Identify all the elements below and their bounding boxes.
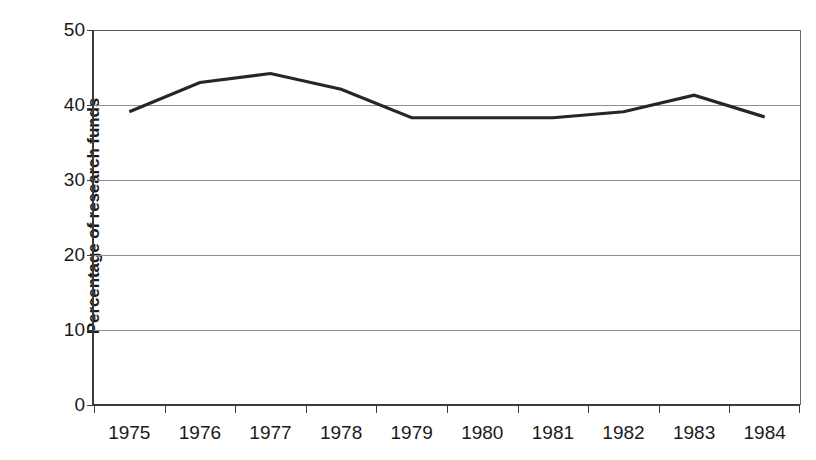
x-tick-label-1982: 1982	[602, 422, 644, 444]
x-tick-label-1978: 1978	[320, 422, 362, 444]
x-tick-mark-5	[447, 405, 448, 413]
x-tick-mark-0	[94, 405, 95, 413]
x-tick-mark-7	[588, 405, 589, 413]
x-tick-label-1981: 1981	[532, 422, 574, 444]
x-tick-mark-8	[659, 405, 660, 413]
y-tick-label-30: 30	[25, 169, 94, 191]
y-tick-label-0: 0	[25, 394, 94, 416]
plot-area: 01020304050 1975197619771978197919801981…	[92, 30, 801, 405]
x-tick-mark-1	[165, 405, 166, 413]
y-tick-mark-30	[87, 180, 94, 181]
y-tick-mark-50	[87, 30, 94, 31]
x-tick-mark-3	[306, 405, 307, 413]
x-tick-mark-2	[235, 405, 236, 413]
y-tick-mark-20	[87, 255, 94, 256]
y-tick-label-40: 40	[25, 94, 94, 116]
x-tick-mark-9	[729, 405, 730, 413]
x-tick-label-1984: 1984	[744, 422, 786, 444]
x-tick-label-1980: 1980	[461, 422, 503, 444]
y-tick-mark-40	[87, 105, 94, 106]
x-tick-mark-6	[518, 405, 519, 413]
line-chart: Percentage of research funds 01020304050…	[0, 0, 816, 460]
y-tick-label-10: 10	[25, 319, 94, 341]
y-tick-mark-10	[87, 330, 94, 331]
x-tick-mark-4	[376, 405, 377, 413]
x-tick-mark-10	[799, 405, 800, 413]
x-tick-label-1977: 1977	[249, 422, 291, 444]
x-tick-label-1979: 1979	[391, 422, 433, 444]
series-line-percentage-of-research-funds	[129, 74, 764, 118]
x-tick-label-1976: 1976	[179, 422, 221, 444]
y-tick-mark-0	[87, 405, 94, 406]
y-tick-label-20: 20	[25, 244, 94, 266]
data-series-layer	[94, 30, 800, 405]
y-tick-label-50: 50	[25, 19, 94, 41]
x-tick-label-1983: 1983	[673, 422, 715, 444]
x-tick-label-1975: 1975	[108, 422, 150, 444]
